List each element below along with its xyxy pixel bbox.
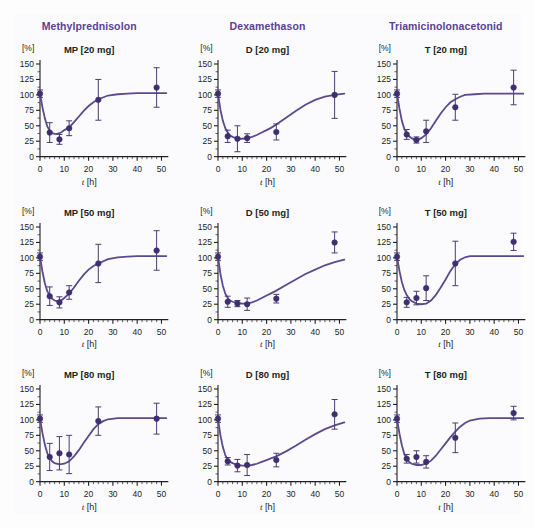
- data-marker: [154, 85, 160, 91]
- data-point-group: [95, 407, 101, 435]
- svg-text:50: 50: [25, 121, 35, 131]
- svg-text:30: 30: [465, 489, 475, 499]
- svg-text:25: 25: [381, 136, 391, 146]
- x-axis-label: t [h]: [357, 339, 535, 349]
- svg-text:10: 10: [416, 489, 426, 499]
- data-point-group: [215, 90, 221, 97]
- data-point-group: [66, 436, 72, 474]
- svg-text:150: 150: [376, 384, 390, 394]
- svg-text:125: 125: [20, 237, 34, 247]
- svg-text:0: 0: [216, 489, 221, 499]
- data-marker: [57, 451, 63, 457]
- svg-text:75: 75: [381, 431, 391, 441]
- plot-cell-t-80-mg: T [80 mg][%]025507510012515001020304050t…: [357, 365, 535, 528]
- svg-text:100: 100: [376, 90, 390, 100]
- data-marker: [47, 454, 53, 460]
- svg-text:75: 75: [203, 431, 213, 441]
- x-axis-label: t [h]: [0, 339, 178, 349]
- svg-text:100: 100: [198, 90, 212, 100]
- data-point-group: [37, 253, 43, 260]
- data-point-group: [235, 126, 241, 152]
- plot-grid: MP [20 mg][%]025507510012515001020304050…: [0, 40, 535, 528]
- svg-text:50: 50: [157, 489, 167, 499]
- svg-text:125: 125: [20, 74, 34, 84]
- svg-text:20: 20: [441, 489, 451, 499]
- svg-text:25: 25: [25, 136, 35, 146]
- svg-text:0: 0: [208, 314, 213, 324]
- data-point-group: [215, 415, 221, 422]
- data-marker: [452, 104, 458, 110]
- svg-text:50: 50: [203, 283, 213, 293]
- svg-text:0: 0: [394, 164, 399, 174]
- data-point-group: [423, 275, 429, 300]
- fit-curve: [218, 419, 344, 466]
- svg-text:50: 50: [513, 326, 523, 336]
- svg-text:30: 30: [286, 489, 296, 499]
- data-marker: [404, 132, 410, 138]
- svg-text:75: 75: [203, 268, 213, 278]
- svg-text:75: 75: [25, 268, 35, 278]
- svg-text:40: 40: [132, 326, 142, 336]
- data-point-group: [244, 455, 250, 476]
- plot-cell-d-20-mg: D [20 mg][%]025507510012515001020304050t…: [178, 40, 356, 203]
- svg-text:75: 75: [381, 268, 391, 278]
- data-marker: [235, 463, 241, 469]
- data-point-group: [413, 137, 419, 143]
- svg-text:25: 25: [381, 462, 391, 472]
- svg-text:0: 0: [208, 152, 213, 162]
- svg-text:10: 10: [238, 164, 248, 174]
- data-marker: [394, 91, 400, 97]
- svg-text:40: 40: [489, 164, 499, 174]
- data-marker: [66, 289, 72, 295]
- data-point-group: [235, 300, 241, 306]
- svg-text:20: 20: [262, 326, 272, 336]
- svg-text:0: 0: [386, 314, 391, 324]
- data-point-group: [235, 460, 241, 472]
- svg-text:40: 40: [132, 164, 142, 174]
- column-header-triamicinolonacetonid: Triamicinolonacetonid: [357, 20, 535, 40]
- svg-text:150: 150: [20, 384, 34, 394]
- column-header-methylprednisolon: Methylprednisolon: [0, 20, 178, 40]
- data-point-group: [154, 404, 160, 435]
- svg-text:40: 40: [311, 164, 321, 174]
- svg-text:20: 20: [441, 164, 451, 174]
- svg-text:20: 20: [262, 164, 272, 174]
- data-point-group: [332, 71, 338, 118]
- data-point-group: [154, 68, 160, 108]
- svg-text:150: 150: [198, 222, 212, 232]
- data-point-group: [274, 294, 280, 303]
- column-header-dexamethason: Dexamethason: [178, 20, 356, 40]
- data-marker: [394, 254, 400, 260]
- svg-text:10: 10: [416, 326, 426, 336]
- svg-text:125: 125: [20, 400, 34, 410]
- data-marker: [245, 301, 251, 307]
- data-marker: [452, 260, 458, 266]
- svg-text:30: 30: [108, 489, 118, 499]
- svg-text:25: 25: [203, 462, 213, 472]
- data-point-group: [37, 415, 43, 422]
- svg-text:25: 25: [203, 136, 213, 146]
- svg-text:75: 75: [25, 105, 35, 115]
- data-point-group: [510, 70, 516, 105]
- fit-curve: [218, 256, 344, 303]
- svg-text:100: 100: [198, 253, 212, 263]
- svg-text:125: 125: [198, 74, 212, 84]
- svg-text:25: 25: [381, 299, 391, 309]
- data-point-group: [56, 296, 62, 307]
- data-marker: [57, 299, 63, 305]
- x-axis-label: t [h]: [357, 177, 535, 187]
- data-marker: [413, 137, 419, 143]
- svg-text:30: 30: [286, 326, 296, 336]
- data-point-group: [244, 134, 250, 143]
- svg-text:30: 30: [465, 326, 475, 336]
- data-point-group: [452, 423, 458, 453]
- svg-text:10: 10: [238, 489, 248, 499]
- svg-text:0: 0: [216, 326, 221, 336]
- data-point-group: [332, 232, 338, 253]
- data-point-group: [56, 134, 62, 144]
- data-point-group: [423, 456, 429, 468]
- data-marker: [225, 133, 231, 139]
- data-marker: [96, 260, 102, 266]
- x-axis-label: t [h]: [178, 502, 356, 512]
- data-marker: [452, 435, 458, 441]
